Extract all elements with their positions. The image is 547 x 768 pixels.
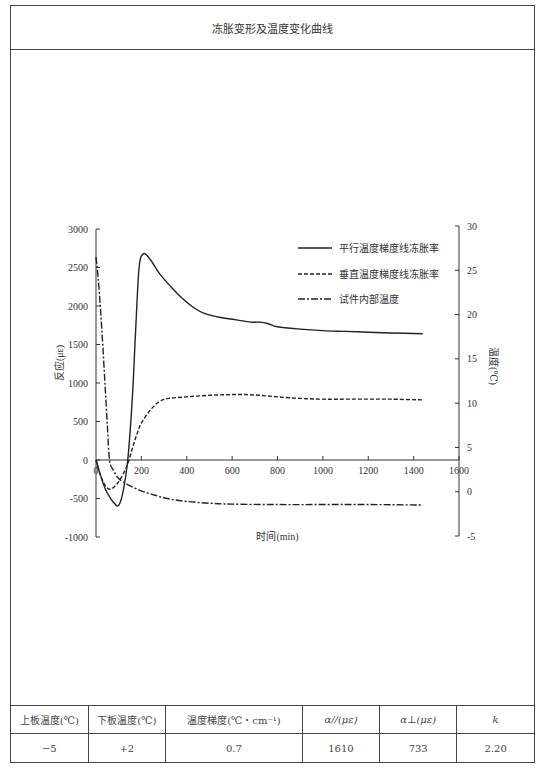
x-tick-label: 800	[270, 465, 285, 476]
x-tick-label: 400	[179, 465, 194, 476]
legend-label-2: 垂直温度梯度线冻胀率	[339, 268, 439, 280]
y-tick-label-left: -1000	[65, 532, 88, 543]
x-tick-label: 1200	[358, 465, 378, 476]
y-tick-label-left: 1000	[68, 378, 88, 389]
frost-heave-chart: -1000-500050010001500200025003000-505101…	[0, 0, 547, 768]
legend-label-1: 平行温度梯度线冻胀率	[339, 242, 439, 254]
x-axis-title: 时间(min)	[256, 530, 298, 543]
legend-label-3: 试件内部温度	[339, 293, 399, 305]
y-tick-label-right: 5	[467, 442, 472, 453]
x-tick-label: 1400	[404, 465, 424, 476]
y-tick-label-left: 500	[73, 416, 88, 427]
y-tick-label-left: 0	[83, 455, 88, 466]
x-tick-label: 1000	[313, 465, 333, 476]
y-tick-label-right: 20	[467, 309, 477, 320]
y-tick-label-right: -5	[467, 531, 475, 542]
y-axis-title-left: 反应(με)	[53, 345, 66, 381]
y-tick-label-right: 15	[467, 353, 477, 364]
y-tick-label-left: 2500	[68, 262, 88, 273]
y-tick-label-left: -500	[70, 493, 88, 504]
y-tick-label-right: 25	[467, 265, 477, 276]
y-tick-label-left: 2000	[68, 301, 88, 312]
x-tick-label: 200	[134, 465, 149, 476]
x-tick-label: 1600	[449, 465, 469, 476]
y-tick-label-right: 30	[467, 221, 477, 232]
x-tick-label: 600	[225, 465, 240, 476]
y-tick-label-right: 0	[467, 486, 472, 497]
y-tick-label-left: 3000	[68, 224, 88, 235]
y-tick-label-right: 10	[467, 398, 477, 409]
y-tick-label-left: 1500	[68, 339, 88, 350]
y-axis-title-right: 温度(℃)	[487, 347, 500, 385]
